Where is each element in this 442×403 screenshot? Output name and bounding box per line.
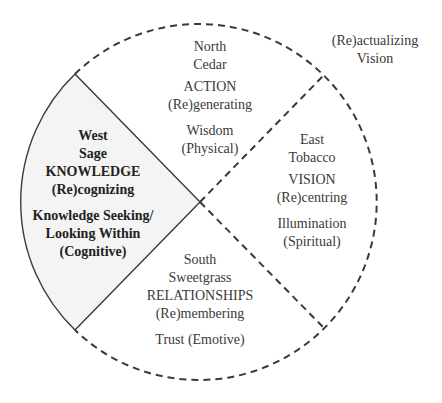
south-quadrant-label: South Sweetgrass RELATIONSHIPS (Re)membe… xyxy=(140,251,260,349)
north-quadrant-label: North Cedar ACTION (Re)generating Wisdom… xyxy=(150,38,270,158)
east-quadrant-label: East Tobacco VISION (Re)centring Illumin… xyxy=(262,131,362,251)
south-process: (Re)membering xyxy=(140,305,260,323)
north-domain: (Physical) xyxy=(150,140,270,158)
west-medicine: Sage xyxy=(28,145,158,163)
east-quality: Illumination xyxy=(262,215,362,233)
north-process: (Re)generating xyxy=(150,96,270,114)
east-process: (Re)centring xyxy=(262,189,362,207)
east-medicine: Tobacco xyxy=(262,149,362,167)
east-theme: VISION xyxy=(262,171,362,189)
east-domain: (Spiritual) xyxy=(262,233,362,251)
outer-annotation-line2: Vision xyxy=(320,50,430,68)
west-process: (Re)cognizing xyxy=(28,181,158,199)
north-medicine: Cedar xyxy=(150,56,270,74)
south-quality: Trust (Emotive) xyxy=(140,331,260,349)
south-direction: South xyxy=(140,251,260,269)
west-theme: KNOWLEDGE xyxy=(28,163,158,181)
south-medicine: Sweetgrass xyxy=(140,269,260,287)
west-quadrant-label: West Sage KNOWLEDGE (Re)cognizing Knowle… xyxy=(28,127,158,261)
outer-annotation-line1: (Re)actualizing xyxy=(320,32,430,50)
north-direction: North xyxy=(150,38,270,56)
outer-annotation: (Re)actualizing Vision xyxy=(320,32,430,68)
west-quality-line1: Knowledge Seeking/ xyxy=(28,207,158,225)
west-direction: West xyxy=(28,127,158,145)
south-theme: RELATIONSHIPS xyxy=(140,287,260,305)
north-theme: ACTION xyxy=(150,78,270,96)
north-quality: Wisdom xyxy=(150,122,270,140)
west-quality-line2: Looking Within xyxy=(28,225,158,243)
west-domain: (Cognitive) xyxy=(28,243,158,261)
east-direction: East xyxy=(262,131,362,149)
